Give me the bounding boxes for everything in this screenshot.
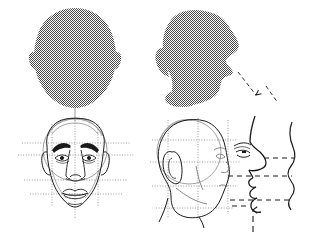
- head-construction-figure: [0, 0, 313, 235]
- right-pupil: [87, 156, 90, 159]
- left-pupil: [60, 156, 63, 159]
- figure-canvas: [0, 0, 313, 235]
